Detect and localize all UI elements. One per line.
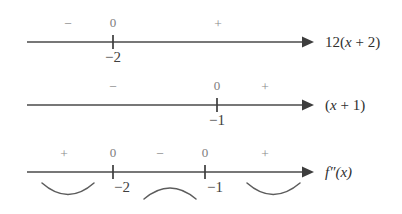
zero-label-2-0: 0 xyxy=(214,78,221,93)
expression-prefix-1: 12( xyxy=(325,34,345,51)
concavity-arc-up-1 xyxy=(42,183,94,195)
zero-label-3-0: 0 xyxy=(110,145,117,160)
sign-label-2-0: − xyxy=(109,79,117,94)
root-label-3-1: −1 xyxy=(207,179,223,195)
expression-suffix-2: + 1) xyxy=(337,97,365,114)
root-label-1-0: −2 xyxy=(105,49,121,65)
arrow-head-icon-3 xyxy=(302,167,314,178)
number-line-1: − 0 + −2 12(x + 2) xyxy=(27,15,380,65)
root-label-3-0: −2 xyxy=(114,179,130,195)
zero-label-3-1: 0 xyxy=(202,145,209,160)
expression-label-1: 12(x + 2) xyxy=(325,34,380,51)
sign-label-3-1: − xyxy=(156,146,164,161)
root-label-2-0: −1 xyxy=(209,112,225,128)
sign-label-3-0: + xyxy=(60,146,68,161)
sign-label-1-1: + xyxy=(214,16,222,31)
number-line-3: + 0 − 0 + −2 −1 f″(x) xyxy=(27,145,352,199)
expression-label-3: f″(x) xyxy=(325,164,352,181)
arrow-head-icon-1 xyxy=(302,37,314,48)
expression-suffix-3: (x) xyxy=(335,164,352,181)
sign-label-3-2: + xyxy=(261,146,269,161)
arrow-head-icon-2 xyxy=(302,100,314,111)
expression-suffix-1: + 2) xyxy=(352,34,380,51)
concavity-arc-up-2 xyxy=(247,183,300,195)
sign-chart-figure: − 0 + −2 12(x + 2) − 0 + −1 (x + 1) xyxy=(0,0,402,214)
sign-label-1-0: − xyxy=(64,16,72,31)
zero-label-1-0: 0 xyxy=(110,15,117,30)
number-line-2: − 0 + −1 (x + 1) xyxy=(27,78,365,128)
expression-label-2: (x + 1) xyxy=(325,97,365,114)
sign-label-2-1: + xyxy=(261,79,269,94)
concavity-arc-down-1 xyxy=(144,188,196,199)
